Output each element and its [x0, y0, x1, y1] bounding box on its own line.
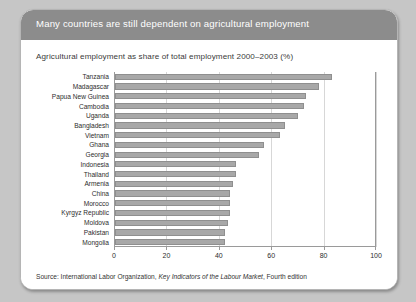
figure-body: Agricultural employment as share of tota…	[21, 40, 397, 290]
bar	[115, 220, 228, 226]
bar	[115, 113, 298, 119]
x-axis-tick-label: 20	[162, 252, 170, 259]
y-axis-label: Uganda	[86, 112, 109, 119]
x-axis-tick-label: 80	[320, 252, 328, 259]
y-axis-label: China	[92, 190, 109, 197]
source-prefix: Source: International Labor Organization…	[36, 273, 158, 280]
bar	[115, 200, 230, 206]
x-axis-tick-label: 40	[215, 252, 223, 259]
bar	[115, 190, 230, 196]
x-axis-tick	[271, 247, 272, 250]
y-axis-line	[114, 72, 115, 247]
bar	[115, 181, 233, 187]
plot-area	[114, 72, 376, 247]
bar	[115, 103, 304, 109]
y-axis-label: Ghana	[89, 141, 109, 148]
y-axis-label: Thailand	[84, 171, 109, 178]
source-note: Source: International Labor Organization…	[36, 273, 307, 280]
y-axis-label: Kyrgyz Republic	[61, 209, 109, 216]
x-axis-tick	[166, 247, 167, 250]
bar	[115, 210, 230, 216]
bar	[115, 171, 236, 177]
gridline	[376, 72, 377, 247]
y-axis-label: Vietnam	[85, 132, 109, 139]
figure-header-title: Many countries are still dependent on ag…	[36, 18, 309, 29]
x-axis-tick-label: 0	[112, 252, 116, 259]
plot-inner	[114, 72, 376, 247]
x-axis-tick	[324, 247, 325, 250]
bar	[115, 142, 264, 148]
bar	[115, 229, 225, 235]
y-axis-label: Papua New Guinea	[52, 93, 109, 100]
y-axis-label: Armenia	[84, 180, 109, 187]
bar	[115, 93, 306, 99]
bar	[115, 74, 332, 80]
y-axis-label: Madagascar	[73, 83, 109, 90]
figure-header-band: Many countries are still dependent on ag…	[21, 10, 397, 40]
y-axis-label: Pakistan	[84, 229, 109, 236]
bar	[115, 132, 280, 138]
chart-subtitle: Agricultural employment as share of tota…	[36, 52, 293, 61]
y-axis-label: Tanzania	[83, 73, 109, 80]
y-axis-label: Mongolia	[82, 239, 109, 246]
x-axis: 020406080100	[114, 247, 376, 267]
y-axis-label: Georgia	[86, 151, 109, 158]
x-axis-tick-label: 60	[267, 252, 275, 259]
bar	[115, 239, 225, 245]
plot-right-border	[375, 72, 376, 247]
bar	[115, 83, 319, 89]
y-axis-label: Bangladesh	[74, 122, 109, 129]
y-axis-label: Cambodia	[79, 103, 109, 110]
x-axis-tick	[219, 247, 220, 250]
x-axis-tick	[114, 247, 115, 250]
figure-card: Many countries are still dependent on ag…	[20, 9, 398, 290]
x-axis-tick-label: 100	[370, 252, 382, 259]
x-axis-tick	[375, 247, 376, 250]
bar	[115, 152, 259, 158]
gridline	[324, 72, 325, 247]
source-publication-title: Key Indicators of the Labour Market	[158, 273, 262, 280]
bar-chart: TanzaniaMadagascarPapua New GuineaCambod…	[36, 72, 384, 247]
y-axis-label: Morocco	[84, 200, 109, 207]
source-suffix: , Fourth edition	[263, 273, 307, 280]
y-axis-label: Moldova	[84, 219, 109, 226]
bar	[115, 122, 285, 128]
y-axis-labels: TanzaniaMadagascarPapua New GuineaCambod…	[36, 72, 112, 247]
y-axis-label: Indonesia	[80, 161, 109, 168]
bar	[115, 161, 236, 167]
